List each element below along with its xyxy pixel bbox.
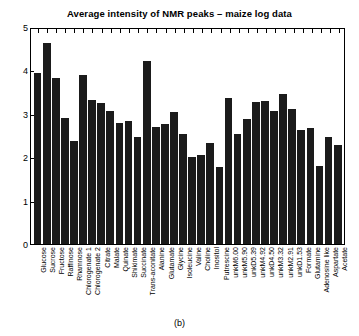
x-tick-label: Choline <box>204 247 211 271</box>
x-tick-label: Glutamine <box>314 247 321 279</box>
bar <box>179 134 187 244</box>
x-tick-label: Adenosine like <box>323 247 330 293</box>
y-tick-label: 5 <box>10 24 28 33</box>
plot-area <box>30 28 345 245</box>
bar <box>307 128 315 244</box>
bar <box>43 43 51 244</box>
x-tick-mark <box>138 29 139 33</box>
y-axis: 012345 <box>4 0 28 336</box>
x-tick-label: Trans-aconitate <box>149 247 156 295</box>
x-tick-label: Glucose <box>40 247 47 273</box>
x-tick-mark <box>211 29 212 33</box>
bar <box>279 94 287 245</box>
bar <box>152 127 160 244</box>
bar <box>134 137 142 245</box>
x-tick-label: Alanine <box>158 247 165 270</box>
bar <box>297 130 305 244</box>
x-tick-label: Succinate <box>140 247 147 278</box>
bar <box>206 143 214 244</box>
bar <box>234 134 242 244</box>
x-tick-mark <box>330 29 331 33</box>
x-tick-mark <box>175 29 176 33</box>
bar <box>34 73 42 244</box>
x-tick-label: Fructose <box>58 247 65 274</box>
bar <box>125 121 133 244</box>
x-tick-mark <box>129 29 130 33</box>
x-tick-mark <box>312 29 313 33</box>
bar <box>70 141 78 244</box>
x-tick-mark <box>111 29 112 33</box>
x-tick-label: Isoleucine <box>186 247 193 279</box>
x-tick-mark <box>257 29 258 33</box>
x-tick-label: Malate <box>113 247 120 268</box>
x-tick-label: unkM4.92 <box>259 247 266 278</box>
x-tick-label: unkM6.00 <box>232 247 239 278</box>
x-tick-mark <box>147 29 148 33</box>
x-tick-label: unkD1.53 <box>296 247 303 277</box>
x-tick-mark <box>202 29 203 33</box>
x-tick-mark <box>65 29 66 33</box>
bar <box>61 118 69 244</box>
x-tick-label: Citrate <box>104 247 111 268</box>
x-tick-label: Shikimate <box>131 247 138 278</box>
x-tick-label: unkD4.50 <box>268 247 275 277</box>
x-tick-mark <box>166 29 167 33</box>
x-tick-label: Glutamate <box>168 247 175 279</box>
x-axis-tick-labels: GlucoseSucroseFructoseRaffinoseRhamnoseC… <box>30 247 345 319</box>
x-tick-mark <box>56 29 57 33</box>
bar-series <box>31 29 344 244</box>
x-tick-label: Acetate <box>341 247 348 271</box>
chart-title: Average intensity of NMR peaks – maize l… <box>0 8 359 19</box>
bar <box>88 100 96 244</box>
x-tick-mark <box>285 29 286 33</box>
y-tick-label: 3 <box>10 110 28 119</box>
x-tick-mark <box>193 29 194 33</box>
x-tick-label: Aspartate <box>332 247 339 277</box>
x-tick-label: Sucrose <box>49 247 56 273</box>
y-tick-label: 2 <box>10 154 28 163</box>
y-tick-mark <box>30 115 34 116</box>
bar <box>288 109 296 244</box>
x-tick-mark <box>120 29 121 33</box>
x-tick-label: Inositol <box>213 247 220 269</box>
y-tick-mark <box>30 71 34 72</box>
x-tick-label: Chlorogenate 1 <box>85 247 92 295</box>
bar <box>106 111 114 244</box>
bar <box>252 102 260 244</box>
bar <box>116 123 124 244</box>
y-tick-label: 4 <box>10 67 28 76</box>
x-tick-label: Quinate <box>122 247 129 272</box>
x-tick-mark <box>275 29 276 33</box>
bar <box>52 78 60 244</box>
x-tick-mark <box>38 29 39 33</box>
x-tick-mark <box>47 29 48 33</box>
x-tick-label: Raffinose <box>67 247 74 276</box>
x-tick-label: Glycine <box>177 247 184 270</box>
x-tick-mark <box>239 29 240 33</box>
x-tick-mark <box>74 29 75 33</box>
bar <box>243 119 251 244</box>
x-tick-mark <box>248 29 249 33</box>
x-tick-label: unkD5.39 <box>250 247 257 277</box>
x-tick-mark <box>184 29 185 33</box>
bar <box>316 166 324 244</box>
y-tick-label: 1 <box>10 197 28 206</box>
bar <box>325 137 333 245</box>
x-tick-label: Formate <box>305 247 312 273</box>
x-tick-label: Putrescine <box>223 247 230 280</box>
figure-panel: Average intensity of NMR peaks – maize l… <box>0 0 359 336</box>
figure-caption: (b) <box>0 318 359 328</box>
bar <box>161 124 169 244</box>
bar <box>79 75 87 244</box>
bar <box>170 112 178 244</box>
x-tick-mark <box>294 29 295 33</box>
bar <box>197 155 205 244</box>
x-tick-mark <box>266 29 267 33</box>
x-tick-mark <box>303 29 304 33</box>
x-tick-mark <box>221 29 222 33</box>
x-tick-mark <box>156 29 157 33</box>
x-tick-mark <box>339 29 340 33</box>
x-tick-label: unkM2.91 <box>287 247 294 278</box>
bar <box>334 145 342 244</box>
x-tick-label: unkM3.32 <box>277 247 284 278</box>
